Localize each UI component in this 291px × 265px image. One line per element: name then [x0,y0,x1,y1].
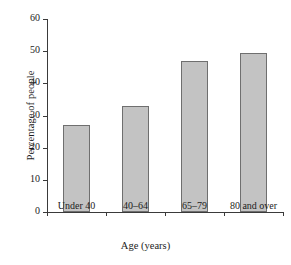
bar [122,106,149,212]
x-axis-tick [165,212,166,216]
y-axis-tick: 20 [43,148,48,149]
x-axis-tick [283,212,284,216]
x-axis-tick [47,212,48,216]
bar [63,125,90,212]
bar [181,61,208,212]
y-axis-tick: 30 [43,116,48,117]
y-axis-tick-label: 60 [30,12,40,23]
y-axis-tick-label: 20 [30,141,40,152]
x-axis-tick [106,212,107,216]
y-axis-tick-label: 40 [30,76,40,87]
y-axis-tick: 10 [43,180,48,181]
x-axis-tick-label: 65–79 [182,200,207,211]
y-axis-tick-label: 0 [35,205,40,216]
x-axis-tick-label: 80 and over [230,200,277,211]
y-axis-tick-label: 30 [30,109,40,120]
y-axis-tick-label: 10 [30,173,40,184]
bar [240,53,267,212]
y-axis-tick: 60 [43,19,48,20]
bar-chart: Percentage of people 0102030405060 Under… [0,0,291,265]
x-axis-title: Age (years) [0,240,291,251]
y-axis-tick: 40 [43,83,48,84]
x-axis-tick [224,212,225,216]
y-axis-tick-label: 50 [30,44,40,55]
y-axis-tick: 50 [43,51,48,52]
x-axis-tick-label: Under 40 [58,200,96,211]
x-axis-tick-label: 40–64 [123,200,148,211]
plot-area: 0102030405060 [47,19,283,212]
